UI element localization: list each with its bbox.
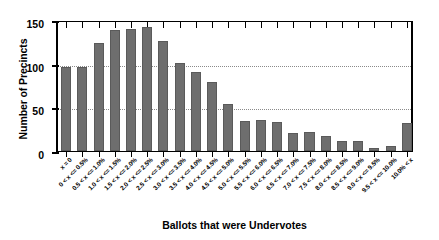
top-tick-mark [342,22,343,28]
bar [272,122,282,151]
top-tick-mark [261,22,262,28]
top-tick-mark [391,22,392,28]
top-tick-mark [82,22,83,28]
plot-area: 050100150 [56,21,413,152]
x-axis-tick-labels: x = 00 < x <= 0.5%0.5 < x <= 1.0%1.0 < x… [56,152,413,212]
top-tick-mark [66,22,67,28]
bar [337,141,347,151]
y-axis-title: Number of Precincts [17,14,29,164]
bar [142,27,152,151]
bar [402,123,412,151]
bar [288,133,298,151]
y-tick-label: 50 [32,106,44,117]
bar [321,136,331,151]
top-tick-mark [131,22,132,28]
bar [240,121,250,151]
top-tick-mark [99,22,100,28]
bar [61,67,71,151]
y-tick-mark: 50 [52,108,59,110]
x-axis-title: Ballots that were Undervotes [56,219,413,231]
y-tick-mark: 150 [52,21,59,23]
bar [191,72,201,151]
y-tick-label: 0 [38,150,44,161]
top-tick-mark [326,22,327,28]
top-tick-mark [212,22,213,28]
top-tick-mark [180,22,181,28]
bar [223,104,233,151]
top-tick-mark [115,22,116,28]
bar [256,120,266,151]
bar [126,29,136,151]
bar [304,132,314,151]
top-tick-mark [277,22,278,28]
top-tick-mark [196,22,197,28]
bar [175,63,185,151]
top-tick-mark [228,22,229,28]
y-tick-mark: 100 [52,65,59,67]
bar [110,30,120,151]
top-tick-mark [245,22,246,28]
bar [94,43,104,151]
y-tick-label: 100 [26,62,44,73]
top-tick-mark [407,22,408,28]
y-tick-label: 150 [26,19,44,30]
top-tick-mark [163,22,164,28]
top-tick-mark [374,22,375,28]
bar [158,41,168,151]
bar [369,148,379,151]
bar [207,82,217,151]
bar [386,146,396,151]
top-tick-mark [310,22,311,28]
bar [353,141,363,151]
bar [77,67,87,151]
top-tick-mark [293,22,294,28]
chart-figure: Number of Precincts 050100150 x = 00 < x… [0,0,439,240]
top-tick-mark [358,22,359,28]
